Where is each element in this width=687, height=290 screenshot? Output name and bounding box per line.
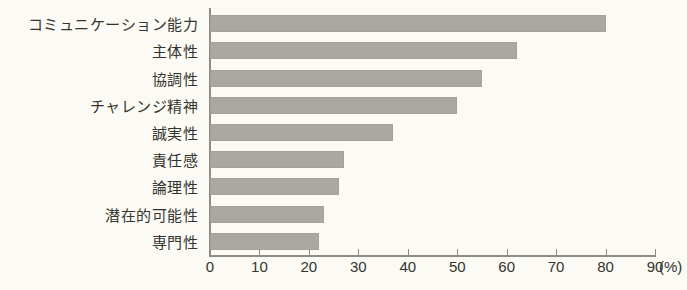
x-axis-tick-label: 10	[251, 258, 268, 275]
x-axis-tick-label: 0	[206, 258, 214, 275]
x-axis-tick-label: 80	[597, 258, 614, 275]
x-axis-tick	[408, 249, 409, 256]
bar	[210, 206, 324, 223]
bar	[210, 15, 606, 32]
bar-row	[210, 92, 655, 119]
x-axis-tick-labels: 0102030405060708090	[0, 258, 687, 284]
bar-row	[210, 64, 655, 91]
x-axis-tick	[507, 249, 508, 256]
category-axis-labels: コミュニケーション能力主体性協調性チャレンジ精神誠実性責任感論理性潜在的可能性専…	[0, 10, 205, 255]
x-axis-ticks	[210, 249, 655, 257]
bar	[210, 97, 457, 114]
x-axis-tick	[210, 249, 211, 256]
category-label: 協調性	[0, 64, 205, 91]
category-label: コミュニケーション能力	[0, 10, 205, 37]
bar-row	[210, 37, 655, 64]
bar-row	[210, 119, 655, 146]
x-axis-tick-label: 30	[350, 258, 367, 275]
category-label: 誠実性	[0, 119, 205, 146]
bar-row	[210, 146, 655, 173]
x-axis-tick	[309, 249, 310, 256]
category-label: 専門性	[0, 228, 205, 255]
x-axis-tick	[556, 249, 557, 256]
x-axis-tick	[606, 249, 607, 256]
category-label: 責任感	[0, 146, 205, 173]
category-label: チャレンジ精神	[0, 92, 205, 119]
x-axis-tick-label: 60	[498, 258, 515, 275]
bar	[210, 124, 393, 141]
bar	[210, 178, 339, 195]
bar-row	[210, 201, 655, 228]
x-axis-tick	[457, 249, 458, 256]
bar	[210, 70, 482, 87]
category-label: 主体性	[0, 37, 205, 64]
x-axis-tick	[358, 249, 359, 256]
category-label: 潜在的可能性	[0, 201, 205, 228]
x-axis-tick	[259, 249, 260, 256]
category-label: 論理性	[0, 173, 205, 200]
bar	[210, 233, 319, 250]
bar-chart: コミュニケーション能力主体性協調性チャレンジ精神誠実性責任感論理性潜在的可能性専…	[0, 0, 687, 290]
plot-area	[210, 10, 655, 255]
bar-rows	[210, 10, 655, 255]
x-axis-tick-label: 50	[449, 258, 466, 275]
bar	[210, 151, 344, 168]
x-axis-unit-label: (%)	[659, 258, 682, 275]
x-axis-tick-label: 20	[301, 258, 318, 275]
bar-row	[210, 10, 655, 37]
bar-row	[210, 173, 655, 200]
bar	[210, 42, 517, 59]
x-axis-tick-label: 70	[548, 258, 565, 275]
x-axis-tick	[655, 249, 656, 256]
x-axis-tick-label: 40	[399, 258, 416, 275]
